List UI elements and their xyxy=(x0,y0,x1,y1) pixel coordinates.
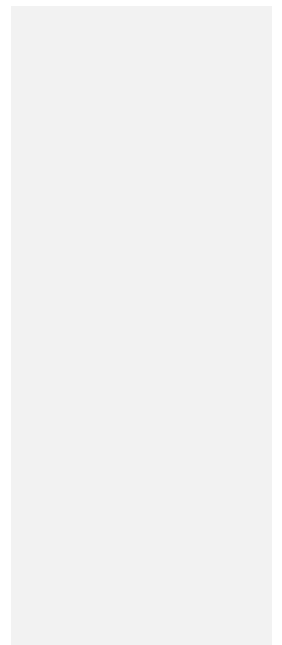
heatmap-view xyxy=(0,0,282,645)
grid-viewport[interactable] xyxy=(11,6,272,645)
